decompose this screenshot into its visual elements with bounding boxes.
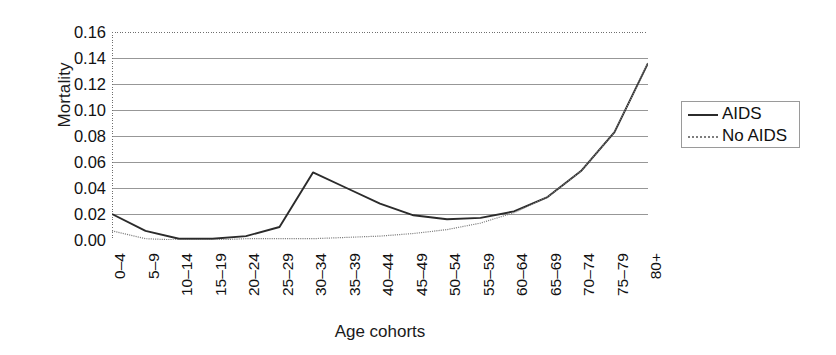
y-axis-tick-label: 0.10	[26, 102, 106, 119]
x-axis-tick-label: 45–49	[414, 253, 430, 319]
gridlines-group	[112, 32, 648, 240]
y-axis-tick-label: 0.08	[26, 128, 106, 145]
solid-line-marker-icon	[688, 107, 718, 121]
x-axis-tick-label: 50–54	[447, 253, 463, 319]
y-axis-tick-label: 0.06	[26, 154, 106, 171]
series-line-aids	[112, 63, 648, 239]
dotted-line-marker-icon	[688, 129, 718, 143]
x-axis-tick-label: 65–69	[548, 253, 564, 319]
y-axis-tick-label: 0.16	[26, 24, 106, 41]
x-axis-tick-label: 60–64	[514, 253, 530, 319]
x-axis-tick-label: 15–19	[213, 253, 229, 319]
legend-label-aids: AIDS	[722, 105, 762, 122]
x-axis-tick-label: 20–24	[246, 253, 262, 319]
x-axis-title: Age cohorts	[112, 322, 648, 342]
plot-area	[112, 32, 648, 240]
legend-label-no-aids: No AIDS	[722, 127, 787, 144]
y-axis-tick-label: 0.14	[26, 50, 106, 67]
series-line-no-aids	[112, 63, 648, 240]
x-axis-tick-label: 25–29	[280, 253, 296, 319]
y-axis-tick-labels: 0.000.020.040.060.080.100.120.140.16	[26, 32, 106, 240]
x-axis-tick-label: 0–4	[112, 253, 128, 319]
y-axis-tick-label: 0.02	[26, 206, 106, 223]
x-axis-tick-label: 5–9	[146, 253, 162, 319]
plot-svg	[112, 32, 648, 240]
chart-legend: AIDS No AIDS	[681, 101, 800, 148]
y-axis-tick-label: 0.12	[26, 76, 106, 93]
x-axis-tick-label: 75–79	[615, 253, 631, 319]
x-axis-tick-label: 10–14	[179, 253, 195, 319]
x-axis-tick-label: 55–59	[481, 253, 497, 319]
x-axis-tick-label: 80+	[648, 253, 664, 319]
x-axis-tick-label: 35–39	[347, 253, 363, 319]
y-axis-tick-label: 0.04	[26, 180, 106, 197]
x-axis-tick-label: 40–44	[380, 253, 396, 319]
legend-item-aids: AIDS	[682, 102, 799, 125]
data-series-group	[112, 63, 648, 240]
x-axis-tick-label: 30–34	[313, 253, 329, 319]
legend-item-no-aids: No AIDS	[682, 124, 799, 147]
y-axis-tick-label: 0.00	[26, 232, 106, 249]
x-axis-tick-labels: 0–45–910–1415–1920–2425–2930–3435–3940–4…	[112, 245, 648, 315]
x-axis-tick-label: 70–74	[581, 253, 597, 319]
mortality-by-age-cohort-line-chart: Mortality 0.000.020.040.060.080.100.120.…	[0, 0, 836, 355]
